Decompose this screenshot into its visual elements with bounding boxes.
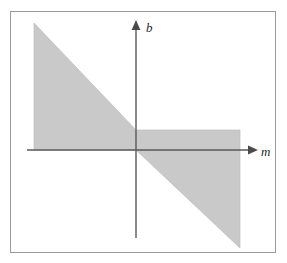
axis-label-b: b [146,21,153,34]
shaded-region-upper-left-triangle [34,23,136,150]
shaded-region-lower-right-triangle [136,150,240,248]
horizontal-axis-arrow-icon [248,146,258,155]
axis-label-m: m [261,145,270,158]
vertical-axis-arrow-icon [132,20,141,30]
coordinate-plot [0,0,287,263]
shaded-region-upper-right-rectangle [136,130,240,150]
figure-container: b m [0,0,287,263]
